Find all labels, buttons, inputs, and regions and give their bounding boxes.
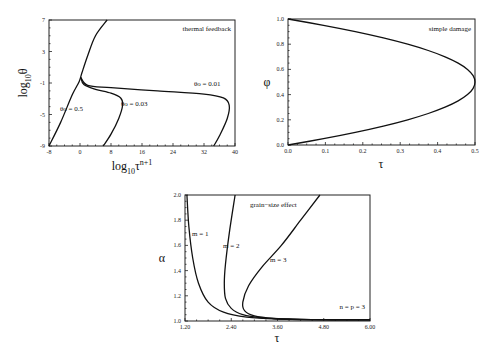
x-tick-label: 0	[79, 149, 82, 155]
x-tick-label: 8	[110, 149, 113, 155]
x-tick-label: 40	[232, 149, 238, 155]
x-axis-title: log10τn+1	[112, 158, 153, 176]
x-tick-label: 0.2	[359, 148, 367, 154]
data-curve	[224, 195, 370, 320]
y-axis-title: φ	[264, 75, 271, 89]
curve-label: θo = 0.01	[194, 80, 221, 88]
y-tick-label: 3	[42, 49, 45, 55]
y-tick-label: 0.0	[277, 142, 285, 148]
x-axis-title: τ	[275, 331, 280, 345]
curve-label: θo = 0.03	[121, 100, 148, 108]
data-curve	[49, 20, 107, 146]
curve-label: n = p = 3	[340, 303, 366, 311]
curve-label: m = 3	[270, 256, 287, 264]
x-tick-label: -8	[47, 149, 52, 155]
x-tick-label: 16	[139, 149, 145, 155]
panel-title: thermal feedback	[183, 25, 232, 33]
x-tick-label: 4.80	[319, 324, 330, 330]
x-tick-label: 0.3	[396, 148, 404, 154]
figure: -80816243240-9-5-137 thermal feedback θo…	[0, 0, 491, 354]
y-axis-title: log10θ	[16, 68, 33, 97]
x-tick-label: 2.40	[226, 324, 237, 330]
curve-label: m = 1	[192, 230, 209, 238]
y-tick-label: 1.0	[174, 318, 182, 324]
y-tick-label: 7	[42, 17, 45, 23]
x-tick-label: 3.60	[272, 324, 283, 330]
curve-label: m = 2	[223, 242, 240, 250]
panel-title: grain−size effect	[250, 201, 297, 209]
y-tick-label: -9	[40, 143, 45, 149]
x-tick-label: 32	[201, 149, 207, 155]
x-axis-title: τ	[379, 157, 384, 171]
x-tick-label: 0.0	[284, 148, 292, 154]
y-tick-label: -5	[40, 112, 45, 118]
y-tick-label: 1.0	[277, 16, 285, 22]
curve-label: θo = 0.5	[60, 105, 84, 113]
x-tick-label: 6.00	[365, 324, 376, 330]
simple-damage-plot: 0.00.10.20.30.40.50.00.20.40.60.81.0 sim…	[264, 16, 479, 171]
x-tick-label: 1.20	[180, 324, 191, 330]
y-tick-label: 1.6	[174, 242, 182, 248]
x-tick-label: 0.1	[322, 148, 330, 154]
grain-size-effect-plot: 1.202.403.604.806.001.01.21.41.61.82.0 g…	[159, 192, 375, 345]
y-tick-label: 0.6	[277, 66, 285, 72]
y-tick-label: 1.8	[174, 217, 182, 223]
x-tick-label: 0.5	[471, 148, 479, 154]
data-curve	[243, 195, 370, 320]
y-tick-label: 1.4	[174, 268, 182, 274]
data-curve	[288, 19, 475, 145]
y-tick-label: 0.8	[277, 41, 285, 47]
y-tick-label: 0.2	[277, 117, 285, 123]
y-axis-title: α	[159, 251, 166, 265]
x-tick-label: 0.4	[434, 148, 442, 154]
y-tick-label: 2.0	[174, 192, 182, 198]
y-tick-label: 0.4	[277, 92, 285, 98]
panel-title: simple damage	[429, 25, 471, 33]
y-tick-label: -1	[40, 80, 45, 86]
svg-text:log10θ: log10θ	[16, 68, 33, 97]
x-tick-label: 24	[170, 149, 176, 155]
y-tick-label: 1.2	[174, 293, 182, 299]
thermal-feedback-plot: -80816243240-9-5-137 thermal feedback θo…	[16, 17, 238, 176]
